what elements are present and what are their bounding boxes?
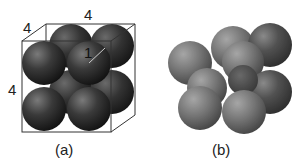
translucent-spheres xyxy=(168,23,292,134)
label-depth-edge: 4 xyxy=(23,19,31,36)
label-side-edge: 4 xyxy=(8,81,16,98)
label-radius: 1 xyxy=(84,44,92,61)
figure-canvas: 4 4 4 1 (a) (b) xyxy=(0,0,299,165)
sphere-b-front-bottom-left xyxy=(178,86,222,130)
label-top-edge: 4 xyxy=(84,6,92,23)
panel-b: (b) xyxy=(168,23,292,158)
sphere-front-bottom-left xyxy=(22,87,66,131)
panel-a: 4 4 4 1 (a) xyxy=(8,6,135,158)
sphere-b-front-bottom-right xyxy=(222,90,266,134)
sphere-front-bottom-right xyxy=(67,87,111,131)
caption-a: (a) xyxy=(55,141,73,158)
sphere-front-top-left xyxy=(22,41,66,85)
caption-b: (b) xyxy=(212,141,230,158)
